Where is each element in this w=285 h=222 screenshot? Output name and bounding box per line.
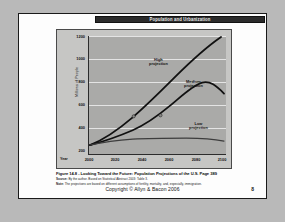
x-tick-2060: 2060	[161, 157, 177, 162]
figure-chart: Millions of People 1200 1000 800 600 400…	[56, 29, 232, 169]
figure-note-label: Note:	[56, 182, 64, 186]
curve-label-low: Low projection	[189, 122, 208, 131]
figure-note-text: The projections are based on different a…	[65, 182, 202, 186]
header-banner-label: Population and Urbanization	[150, 17, 211, 23]
x-tick-2000: 2000	[81, 157, 97, 162]
figure-source-text: By the author. Based on Statistical Abst…	[68, 177, 147, 181]
y-tick-400: 400	[65, 125, 85, 130]
chart-curves	[89, 36, 226, 154]
y-tick-600: 600	[65, 102, 85, 107]
x-axis-title: Year	[60, 157, 68, 161]
x-tick-2100: 2100	[214, 157, 230, 162]
plot-area: High projection Medium projection Low pr…	[88, 36, 226, 155]
curve-label-high-line2: projection	[149, 61, 168, 66]
curve-medium-projection	[90, 82, 224, 145]
x-tick-2080: 2080	[188, 157, 204, 162]
data-marker-medium-2050	[159, 114, 162, 117]
footer-copyright: Copyright © Allyn & Bacon 2006	[19, 186, 266, 192]
slide: Population and Urbanization Millions of …	[18, 13, 267, 199]
y-tick-1200: 1200	[65, 34, 85, 39]
data-marker-high-2040	[132, 115, 135, 118]
y-tick-200: 200	[65, 148, 85, 153]
curve-label-low-line2: projection	[189, 125, 208, 130]
y-tick-1000: 1000	[65, 56, 85, 61]
curve-label-medium-line2: projection	[184, 83, 203, 88]
x-tick-2020: 2020	[107, 157, 123, 162]
x-tick-2040: 2040	[134, 157, 150, 162]
figure-source-label: Source:	[56, 177, 68, 181]
y-tick-800: 800	[65, 79, 85, 84]
figure-caption: Figure 14.8 - Looking Toward the Future:…	[56, 171, 256, 186]
header-banner: Population and Urbanization	[95, 16, 265, 23]
curve-label-medium: Medium projection	[184, 80, 203, 89]
page-number: 8	[251, 186, 254, 192]
curve-label-high: High projection	[149, 58, 168, 67]
